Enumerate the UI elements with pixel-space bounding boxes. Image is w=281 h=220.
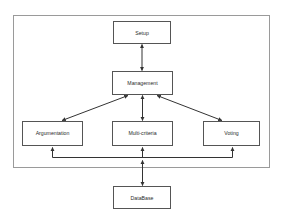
node-management-label: Management (127, 80, 158, 86)
node-voting-label: Voting (224, 130, 239, 136)
node-setup[interactable]: Setup (114, 22, 171, 44)
node-voting[interactable]: Voting (204, 122, 260, 146)
node-database-label: DataBase (131, 195, 154, 201)
diagram-canvas: Setup Management Argumentation Multi-cri… (0, 0, 281, 220)
node-argumentation-label: Argumentation (36, 130, 70, 136)
node-database[interactable]: DataBase (114, 187, 171, 209)
diagram-svg: Setup Management Argumentation Multi-cri… (0, 0, 281, 220)
node-layer: Setup Management Argumentation Multi-cri… (23, 22, 260, 209)
node-multi-criteria-label: Multi-criteria (128, 130, 156, 136)
edge-management-argumentation (62, 96, 128, 121)
node-multi-criteria[interactable]: Multi-criteria (113, 122, 173, 146)
edge-management-voting (157, 96, 222, 121)
connector-layer (53, 45, 233, 186)
node-setup-label: Setup (135, 30, 149, 36)
node-management[interactable]: Management (113, 72, 173, 95)
node-argumentation[interactable]: Argumentation (23, 122, 83, 146)
